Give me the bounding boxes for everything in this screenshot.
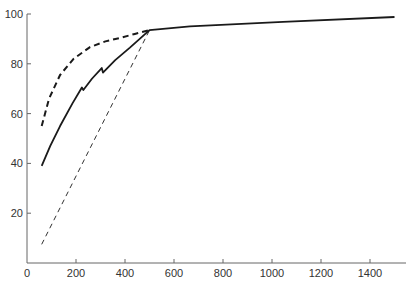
y-tick-label: 60 bbox=[11, 108, 23, 120]
thin-dashed-line bbox=[42, 30, 150, 244]
solid-curve bbox=[42, 17, 395, 166]
x-tick-label: 200 bbox=[67, 267, 85, 279]
line-chart: 020040060080010001200140020406080100 bbox=[0, 0, 413, 285]
y-tick-label: 20 bbox=[11, 207, 23, 219]
x-tick-label: 600 bbox=[165, 267, 183, 279]
x-tick-label: 400 bbox=[116, 267, 134, 279]
x-tick-label: 800 bbox=[214, 267, 232, 279]
x-tick-label: 0 bbox=[24, 267, 30, 279]
axes: 020040060080010001200140020406080100 bbox=[5, 8, 406, 279]
y-tick-label: 40 bbox=[11, 157, 23, 169]
x-tick-label: 1200 bbox=[309, 267, 333, 279]
chart-series bbox=[42, 17, 395, 244]
x-tick-label: 1400 bbox=[358, 267, 382, 279]
x-tick-label: 1000 bbox=[260, 267, 284, 279]
y-tick-label: 80 bbox=[11, 58, 23, 70]
y-tick-label: 100 bbox=[5, 8, 23, 20]
